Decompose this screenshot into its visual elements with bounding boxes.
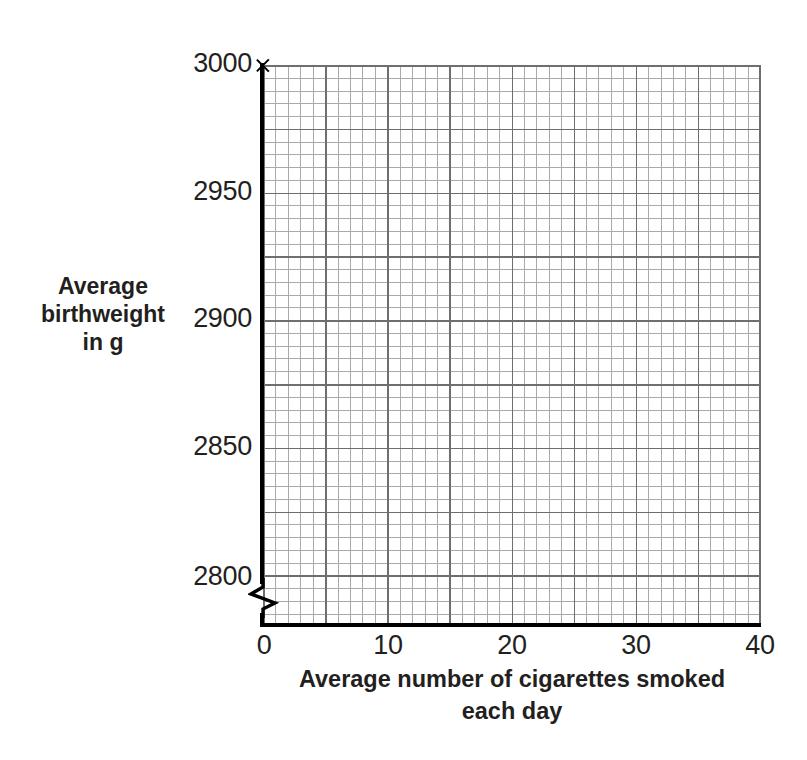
grid-right-edge — [759, 65, 761, 626]
y-axis-title-line-2: birthweight — [41, 301, 165, 327]
y-axis-title-line-1: Average — [58, 273, 148, 299]
x-tick-30: 30 — [596, 630, 676, 661]
y-tick-label: 2800 — [132, 561, 252, 592]
y-axis-break-icon — [248, 578, 280, 618]
x-tick-40: 40 — [720, 630, 800, 661]
y-tick-label: 2950 — [132, 176, 252, 207]
x-tick-0: 0 — [224, 630, 304, 661]
x-axis-title: Average number of cigarettes smoked each… — [238, 663, 786, 727]
scatter-graph-figure: 3000 2950 2900 2850 2800 0 10 20 30 40 A… — [0, 0, 807, 760]
y-tick-label: 2850 — [132, 431, 252, 462]
grid-top-edge — [263, 65, 761, 67]
x-axis-line — [260, 623, 761, 627]
x-axis-title-line-2: each day — [238, 695, 786, 727]
x-axis-title-line-1: Average number of cigarettes smoked — [299, 666, 725, 692]
x-tick-20: 20 — [472, 630, 552, 661]
plot-grid-area — [263, 65, 760, 625]
y-axis-line — [260, 63, 264, 584]
y-axis-title: Average birthweight in g — [18, 272, 188, 356]
y-axis-title-line-3: in g — [83, 329, 124, 355]
y-tick-label: 3000 — [132, 48, 252, 79]
data-point-marker — [255, 57, 272, 74]
x-tick-10: 10 — [348, 630, 428, 661]
